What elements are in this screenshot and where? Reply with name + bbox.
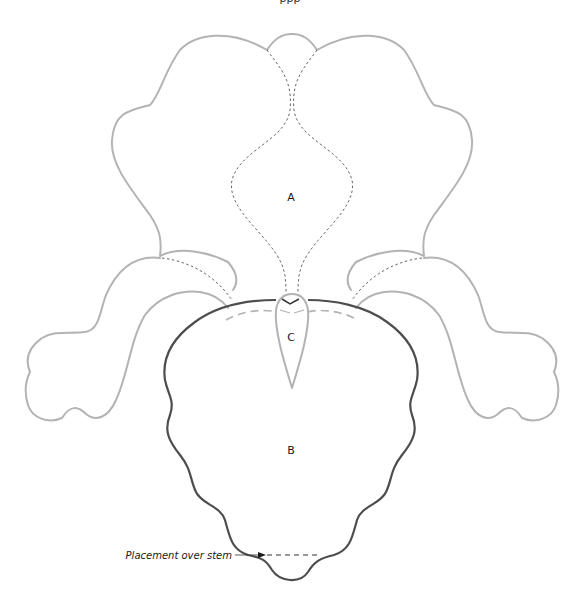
iris-pattern-diagram: ppp A C B Placement over stem: [0, 0, 585, 595]
placement-annotation: Placement over stem: [126, 550, 233, 561]
upper-petal-outline: [112, 34, 472, 290]
left-side-fold-line: [162, 258, 232, 300]
center-fold-line-right: [294, 50, 353, 296]
beard-dash-mark: [280, 310, 304, 313]
right-side-petal-outline: [356, 258, 558, 421]
beard-chevron-mark: [282, 299, 299, 304]
left-side-petal-outline: [26, 258, 228, 421]
label-c: C: [287, 331, 295, 344]
annotation-arrow-icon: [258, 552, 266, 558]
center-fold-line-left: [231, 50, 290, 296]
right-side-fold-line: [352, 258, 422, 300]
label-a: A: [287, 191, 295, 204]
top-caption-partial: ppp: [280, 0, 301, 5]
label-b: B: [287, 444, 295, 457]
fall-fold-dashed-line: [226, 310, 358, 320]
